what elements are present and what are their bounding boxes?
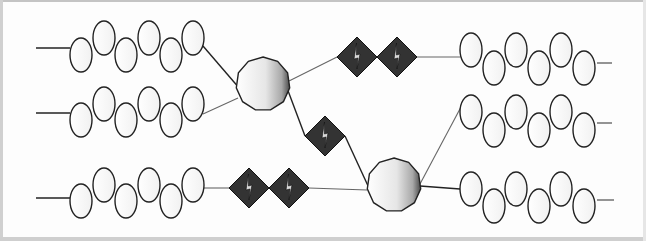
- left-chain-3: [36, 168, 204, 218]
- left-chain-2: [36, 87, 204, 137]
- chain-oval: [505, 95, 527, 129]
- chain-oval: [573, 51, 595, 85]
- mid-diamond-to-node2-line: [345, 136, 369, 188]
- chain-oval: [93, 168, 115, 202]
- chain-oval: [550, 172, 572, 206]
- chain-oval: [182, 168, 204, 202]
- chain-oval: [550, 95, 572, 129]
- node1-to-mid-diamond-line: [287, 88, 305, 136]
- chain-oval: [93, 87, 115, 121]
- right-chain-3: [460, 172, 614, 223]
- chain-oval: [460, 33, 482, 67]
- chain-oval: [505, 172, 527, 206]
- chain-oval: [573, 189, 595, 223]
- chain-oval: [93, 21, 115, 55]
- chain-oval: [483, 51, 505, 85]
- chain-oval: [160, 184, 182, 218]
- chain-diagram: [0, 0, 646, 241]
- right-chain-1: [460, 33, 612, 85]
- chain-oval: [460, 95, 482, 129]
- chain-oval: [160, 38, 182, 72]
- chain-oval: [115, 103, 137, 137]
- chain2-to-node1-line: [203, 98, 238, 114]
- junction-node-2: [367, 158, 420, 211]
- chain-oval: [115, 184, 137, 218]
- right-chain-2: [460, 95, 612, 147]
- chain-oval: [138, 21, 160, 55]
- left-chain-1: [36, 21, 204, 72]
- chain-oval: [573, 113, 595, 147]
- diamond-top-1-lightning-icon: [337, 37, 377, 77]
- chain-oval: [160, 103, 182, 137]
- chain1-to-node1-line: [203, 46, 240, 89]
- node2-to-right3-line: [420, 186, 460, 189]
- chain-oval: [138, 168, 160, 202]
- chain-oval: [483, 189, 505, 223]
- diamond-mid-lightning-icon: [305, 116, 345, 156]
- connector-lines: [203, 46, 461, 190]
- chain-oval: [182, 21, 204, 55]
- chain-oval: [70, 184, 92, 218]
- chain-oval: [528, 51, 550, 85]
- chain-oval: [182, 87, 204, 121]
- chain-oval: [460, 172, 482, 206]
- chain-oval: [138, 87, 160, 121]
- node2-to-right2-line: [420, 107, 461, 184]
- node1-to-top-diamonds-line: [289, 57, 337, 81]
- chain-oval: [70, 38, 92, 72]
- chain-oval: [115, 38, 137, 72]
- bottom-diamonds-to-node2-line: [309, 188, 367, 190]
- diamond-bottom-1-lightning-icon: [229, 168, 269, 208]
- diamond-bottom-2-lightning-icon: [269, 168, 309, 208]
- junction-node-1: [236, 57, 289, 110]
- chain-oval: [505, 33, 527, 67]
- chain-oval: [550, 33, 572, 67]
- chain-oval: [483, 113, 505, 147]
- chain-oval: [70, 103, 92, 137]
- chain-oval: [528, 189, 550, 223]
- diagram-canvas: [0, 0, 646, 241]
- diamond-top-2-lightning-icon: [377, 37, 417, 77]
- chain-oval: [528, 113, 550, 147]
